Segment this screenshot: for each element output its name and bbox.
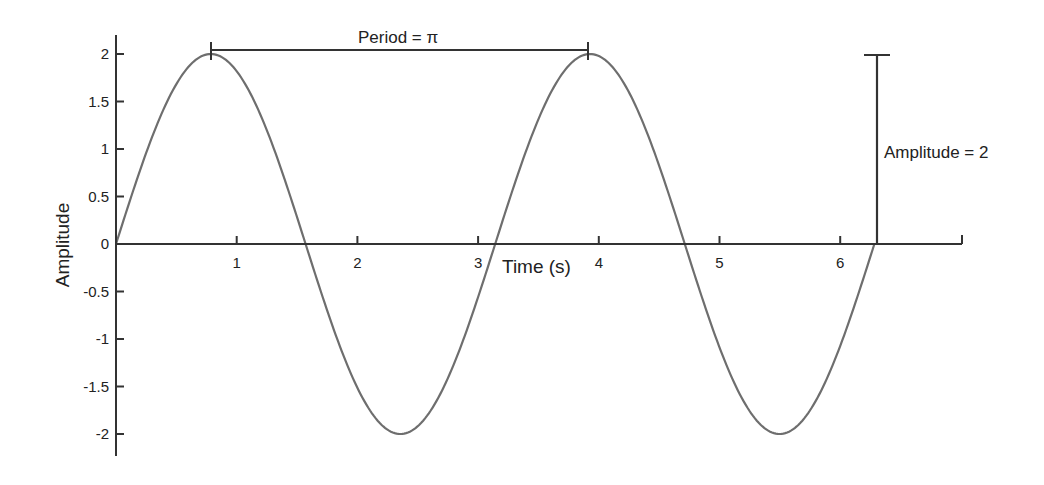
y-tick-label: -1.5 <box>83 378 109 395</box>
y-tick-label: -2 <box>96 425 109 442</box>
period-label: Period = π <box>358 28 438 47</box>
x-tick-label: 1 <box>233 254 241 271</box>
x-tick-label: 4 <box>595 254 603 271</box>
y-tick-label: 0 <box>101 235 109 252</box>
period-annotation: Period = π <box>211 28 588 60</box>
x-tick-label: 3 <box>474 254 482 271</box>
y-tick-label: 0.5 <box>88 188 109 205</box>
y-tick-label: -0.5 <box>83 283 109 300</box>
x-axis-title: Time (s) <box>502 256 571 277</box>
y-axis-title: Amplitude <box>52 203 73 288</box>
y-tick-label: -1 <box>96 330 109 347</box>
x-tick-label: 2 <box>353 254 361 271</box>
amplitude-annotation: Amplitude = 2 <box>864 55 988 244</box>
y-tick-label: 1 <box>101 140 109 157</box>
amplitude-label: Amplitude = 2 <box>884 143 988 162</box>
y-tick-label: 2 <box>101 45 109 62</box>
y-ticks: 21.510.50-0.5-1-1.5-2 <box>83 45 124 442</box>
x-tick-label: 6 <box>836 254 844 271</box>
sine-wave-chart: 21.510.50-0.5-1-1.5-2 123456 Amplitude T… <box>0 0 1044 485</box>
y-tick-label: 1.5 <box>88 93 109 110</box>
x-tick-label: 5 <box>715 254 723 271</box>
